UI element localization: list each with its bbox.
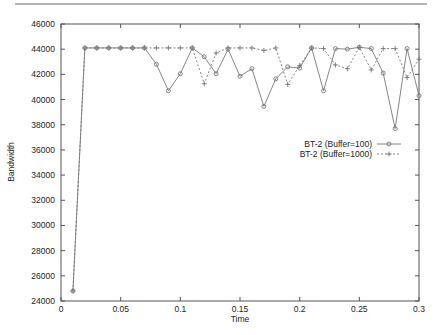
- y-axis: 2400026000280003000032000340003600038000…: [31, 19, 419, 306]
- series-layer: [70, 45, 421, 294]
- legend-label-buffer-100: BT-2 (Buffer=100): [304, 139, 372, 149]
- y-tick-label: 42000: [31, 69, 55, 79]
- legend-label-buffer-1000: BT-2 (Buffer=1000): [300, 149, 373, 159]
- y-tick-label: 28000: [31, 246, 55, 256]
- legend: BT-2 (Buffer=100) BT-2 (Buffer=1000): [300, 139, 401, 159]
- plus-marker-icon: [285, 82, 290, 87]
- plus-marker-icon: [393, 46, 398, 51]
- plus-marker-icon: [238, 45, 243, 50]
- y-axis-title: Bandwidth: [6, 142, 16, 182]
- y-tick-label: 36000: [31, 145, 55, 155]
- plus-marker-icon: [387, 152, 392, 157]
- plus-marker-icon: [345, 66, 350, 71]
- y-tick-label: 26000: [31, 271, 55, 281]
- series-buffer-1000: [70, 45, 421, 294]
- series-line: [73, 47, 419, 291]
- plus-marker-icon: [214, 50, 219, 55]
- x-tick-label: 0.25: [351, 304, 368, 314]
- plus-marker-icon: [405, 75, 410, 80]
- x-tick-label: 0.05: [112, 304, 129, 314]
- series-line: [73, 47, 419, 291]
- y-tick-label: 46000: [31, 19, 55, 29]
- y-tick-label: 32000: [31, 195, 55, 205]
- y-tick-label: 44000: [31, 44, 55, 54]
- plus-marker-icon: [154, 45, 159, 50]
- plus-marker-icon: [178, 45, 183, 50]
- x-axis-title: Time: [231, 314, 250, 324]
- plot-frame: [61, 24, 419, 301]
- x-tick-label: 0.15: [232, 304, 249, 314]
- plus-marker-icon: [321, 46, 326, 51]
- line-chart: 2400026000280003000032000340003600038000…: [0, 0, 439, 335]
- plus-marker-icon: [202, 81, 207, 86]
- plus-marker-icon: [333, 62, 338, 67]
- x-tick-label: 0.1: [174, 304, 186, 314]
- y-tick-label: 30000: [31, 220, 55, 230]
- y-tick-label: 24000: [31, 296, 55, 306]
- y-tick-label: 34000: [31, 170, 55, 180]
- plus-marker-icon: [381, 46, 386, 51]
- y-tick-label: 38000: [31, 120, 55, 130]
- plus-marker-icon: [166, 45, 171, 50]
- series-buffer-100: [71, 45, 421, 293]
- x-tick-label: 0: [59, 304, 64, 314]
- plus-marker-icon: [369, 67, 374, 72]
- plus-marker-icon: [417, 57, 422, 62]
- legend-samples: [377, 142, 401, 157]
- plus-marker-icon: [261, 48, 266, 53]
- x-tick-label: 0.2: [294, 304, 306, 314]
- y-tick-label: 40000: [31, 95, 55, 105]
- plus-marker-icon: [273, 45, 278, 50]
- plus-marker-icon: [249, 45, 254, 50]
- x-tick-label: 0.3: [413, 304, 425, 314]
